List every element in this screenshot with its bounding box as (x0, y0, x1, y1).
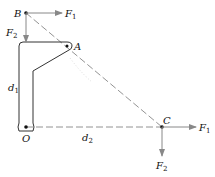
label-c-f1: F1 (198, 122, 210, 135)
label-c-f2: F2 (155, 160, 167, 173)
label-d2: d2 (82, 132, 93, 145)
dashed-line-bc (26, 13, 162, 127)
label-d1: d1 (8, 82, 19, 95)
bracket-body (19, 42, 72, 123)
dotted-arc (70, 58, 92, 82)
label-c: C (163, 115, 171, 126)
label-a: A (73, 41, 81, 52)
point-o (24, 125, 28, 129)
label-b: B (13, 8, 21, 19)
label-o: O (22, 133, 30, 144)
point-a (66, 45, 69, 48)
label-b-f2: F2 (5, 27, 17, 40)
label-b-f1: F1 (64, 8, 76, 21)
bracket-diagram: B A O C F1 F2 F1 F2 d1 d2 (0, 0, 215, 177)
